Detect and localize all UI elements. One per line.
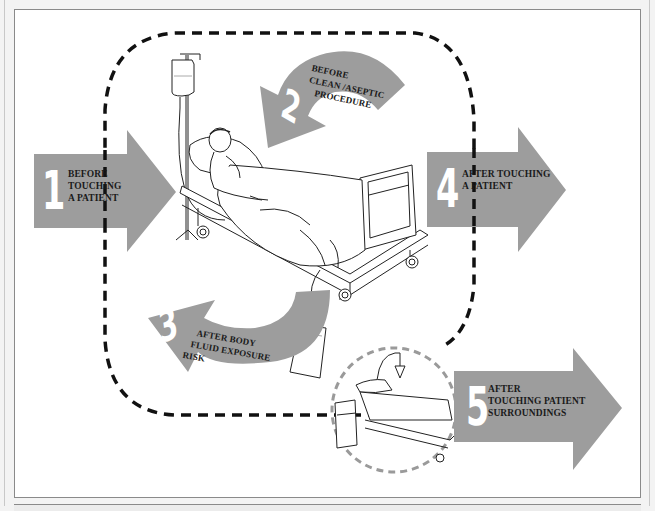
moment-4-number: 4 (436, 162, 459, 216)
bedside-cabinet-icon (335, 400, 357, 448)
moment-1-label: BEFORE TOUCHING A PATIENT (68, 168, 121, 204)
moment-1-number: 1 (42, 164, 65, 218)
moment-5-number: 5 (466, 380, 489, 434)
moment-4-label: AFTER TOUCHING A PATIENT (462, 168, 550, 192)
surroundings-illustration (335, 353, 460, 462)
moment-5-label: AFTER TOUCHING PATIENT SURROUNDINGS (488, 383, 585, 419)
